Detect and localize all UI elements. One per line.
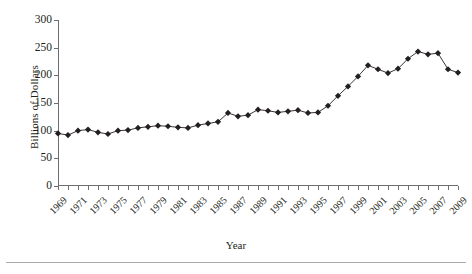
data-point-marker <box>95 129 101 135</box>
y-tick-label: 150 <box>35 97 52 109</box>
data-point-marker <box>145 124 151 130</box>
data-point-marker <box>445 66 451 72</box>
plot-area: 050100150200250300 196919711973197519771… <box>58 20 458 186</box>
x-tick-mark <box>318 186 319 190</box>
x-tick-mark <box>98 186 99 190</box>
data-point-marker <box>415 48 421 54</box>
x-tick-mark <box>358 186 359 190</box>
x-tick-label: 1977 <box>128 195 149 216</box>
x-tick-mark <box>198 186 199 190</box>
data-point-marker <box>385 70 391 76</box>
x-tick-mark <box>348 186 349 190</box>
y-tick-label: 300 <box>35 14 52 26</box>
x-tick-mark <box>288 186 289 190</box>
x-tick-label: 1985 <box>208 195 229 216</box>
y-tick-label: 50 <box>41 153 53 165</box>
x-tick-mark <box>128 186 129 190</box>
data-point-marker <box>65 132 71 138</box>
y-tick-label: 100 <box>35 125 52 137</box>
x-tick-mark <box>368 186 369 190</box>
x-tick-mark <box>448 186 449 190</box>
x-tick-mark <box>438 186 439 190</box>
data-point-marker <box>265 108 271 114</box>
x-tick-label: 2001 <box>368 195 389 216</box>
data-point-marker <box>135 125 141 131</box>
data-point-marker <box>245 112 251 118</box>
x-tick-mark <box>78 186 79 190</box>
chart-figure: Billions of Dollars 050100150200250300 1… <box>0 0 472 274</box>
data-point-marker <box>85 126 91 132</box>
x-tick-mark <box>398 186 399 190</box>
x-tick-mark <box>388 186 389 190</box>
x-tick-label: 1989 <box>248 195 269 216</box>
x-axis-title: Year <box>0 239 472 251</box>
x-tick-mark <box>108 186 109 190</box>
x-tick-label: 1981 <box>168 195 189 216</box>
x-tick-mark <box>248 186 249 190</box>
data-series <box>58 20 458 186</box>
y-tick-label: 200 <box>35 70 52 82</box>
x-tick-mark <box>308 186 309 190</box>
data-point-marker <box>435 50 441 56</box>
data-point-marker <box>125 127 131 133</box>
data-point-marker <box>375 66 381 72</box>
data-point-marker <box>455 69 461 75</box>
x-tick-mark <box>148 186 149 190</box>
data-point-marker <box>235 113 241 119</box>
x-tick-label: 1969 <box>48 195 69 216</box>
x-tick-mark <box>408 186 409 190</box>
x-tick-mark <box>188 186 189 190</box>
x-tick-mark <box>138 186 139 190</box>
x-tick-mark <box>208 186 209 190</box>
x-tick-mark <box>118 186 119 190</box>
data-point-marker <box>285 108 291 114</box>
x-tick-label: 1983 <box>188 195 209 216</box>
x-tick-mark <box>298 186 299 190</box>
x-tick-label: 1997 <box>328 195 349 216</box>
x-tick-mark <box>158 186 159 190</box>
x-tick-mark <box>378 186 379 190</box>
x-tick-mark <box>88 186 89 190</box>
data-point-marker <box>105 131 111 137</box>
x-tick-label: 1973 <box>88 195 109 216</box>
x-tick-label: 1999 <box>348 195 369 216</box>
x-tick-mark <box>218 186 219 190</box>
x-tick-label: 2005 <box>408 195 429 216</box>
footer-divider <box>6 262 466 263</box>
data-point-marker <box>315 109 321 115</box>
x-tick-mark <box>428 186 429 190</box>
data-point-marker <box>425 51 431 57</box>
x-tick-mark <box>418 186 419 190</box>
data-point-marker <box>175 124 181 130</box>
data-point-marker <box>165 123 171 129</box>
x-tick-label: 1987 <box>228 195 249 216</box>
x-tick-label: 1991 <box>268 195 289 216</box>
series-line <box>58 52 458 136</box>
data-point-marker <box>305 110 311 116</box>
x-tick-mark <box>228 186 229 190</box>
x-tick-mark <box>168 186 169 190</box>
x-tick-label: 1993 <box>288 195 309 216</box>
data-point-marker <box>185 125 191 131</box>
data-point-marker <box>195 122 201 128</box>
x-tick-label: 1995 <box>308 195 329 216</box>
x-tick-label: 2007 <box>428 195 449 216</box>
x-tick-mark <box>338 186 339 190</box>
data-point-marker <box>75 128 81 134</box>
data-point-marker <box>295 107 301 113</box>
x-tick-mark <box>328 186 329 190</box>
x-tick-mark <box>238 186 239 190</box>
x-tick-mark <box>458 186 459 190</box>
x-tick-mark <box>68 186 69 190</box>
x-tick-label: 2009 <box>448 195 469 216</box>
x-tick-mark <box>58 186 59 190</box>
x-tick-label: 1975 <box>108 195 129 216</box>
data-point-marker <box>275 109 281 115</box>
x-tick-mark <box>258 186 259 190</box>
x-tick-label: 1971 <box>68 195 89 216</box>
data-point-marker <box>155 123 161 129</box>
data-point-marker <box>205 120 211 126</box>
x-tick-mark <box>268 186 269 190</box>
data-point-marker <box>255 107 261 113</box>
x-tick-mark <box>278 186 279 190</box>
